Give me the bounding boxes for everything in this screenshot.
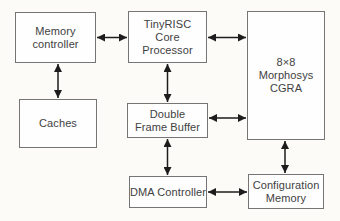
block-8x8-morphosys-cgra: 8×8 Morphosys CGRA xyxy=(247,11,325,140)
block-memory-controller: Memory controller xyxy=(15,12,96,63)
block-caches: Caches xyxy=(19,99,97,148)
block-double-frame-buffer: Double Frame Buffer xyxy=(127,103,208,138)
block-diagram-canvas: Memory controller TinyRISC Core Processo… xyxy=(0,0,340,221)
block-tinyrisc-core-processor: TinyRISC Core Processor xyxy=(128,11,207,63)
block-dma-controller: DMA Controller xyxy=(129,176,207,208)
block-configuration-memory: Configuration Memory xyxy=(248,174,324,209)
